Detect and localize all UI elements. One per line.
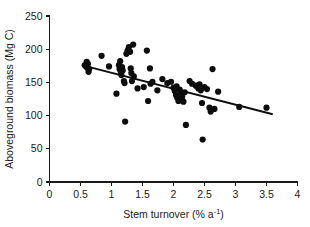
data-point: [263, 105, 269, 111]
x-tick-label: 3: [233, 188, 239, 200]
y-tick-label: 100: [25, 109, 43, 121]
data-point: [134, 85, 140, 91]
data-point: [199, 100, 205, 106]
y-tick-label: 0: [37, 176, 43, 188]
data-point: [145, 98, 151, 104]
data-point: [180, 99, 186, 105]
y-tick-label: 200: [25, 43, 43, 55]
x-tick-label: 2: [171, 188, 177, 200]
data-point: [122, 118, 128, 124]
x-tick-label: 0.5: [73, 188, 88, 200]
data-point: [113, 91, 119, 97]
data-point: [182, 89, 188, 95]
data-point: [131, 73, 137, 79]
data-point: [183, 122, 189, 128]
data-point: [149, 79, 155, 85]
x-tick-label: 1.5: [135, 188, 150, 200]
data-point: [127, 49, 133, 55]
data-point: [215, 89, 221, 95]
data-point: [209, 66, 215, 72]
data-point: [147, 65, 153, 71]
figure-container: 05010015020025000.511.522.533.54Stem tur…: [0, 0, 310, 227]
data-point: [204, 86, 210, 92]
data-point: [121, 80, 127, 86]
data-point: [130, 41, 136, 47]
data-point: [211, 106, 217, 112]
x-tick-label: 3.5: [259, 188, 274, 200]
data-point: [117, 58, 123, 64]
x-tick-label: 0: [47, 188, 53, 200]
data-point: [86, 66, 92, 72]
x-tick-label: 2.5: [197, 188, 212, 200]
data-point: [98, 53, 104, 59]
data-point: [106, 63, 112, 69]
y-tick-label: 150: [25, 76, 43, 88]
x-tick-label: 4: [295, 188, 301, 200]
y-tick-label: 50: [31, 142, 43, 154]
y-tick-label: 250: [25, 10, 43, 22]
y-axis-title: Aboveground biomass (Mg C): [3, 29, 15, 168]
data-point: [236, 104, 242, 110]
x-tick-label: 1: [109, 188, 115, 200]
data-point: [154, 87, 160, 93]
scatter-plot: 05010015020025000.511.522.533.54Stem tur…: [0, 0, 310, 227]
data-point: [144, 47, 150, 53]
data-point: [200, 136, 206, 142]
x-axis-title: Stem turnover (% a-1): [123, 207, 224, 220]
data-point: [141, 84, 147, 90]
data-point: [85, 61, 91, 67]
data-point: [120, 67, 126, 73]
data-point: [159, 76, 165, 82]
data-point: [168, 79, 174, 85]
